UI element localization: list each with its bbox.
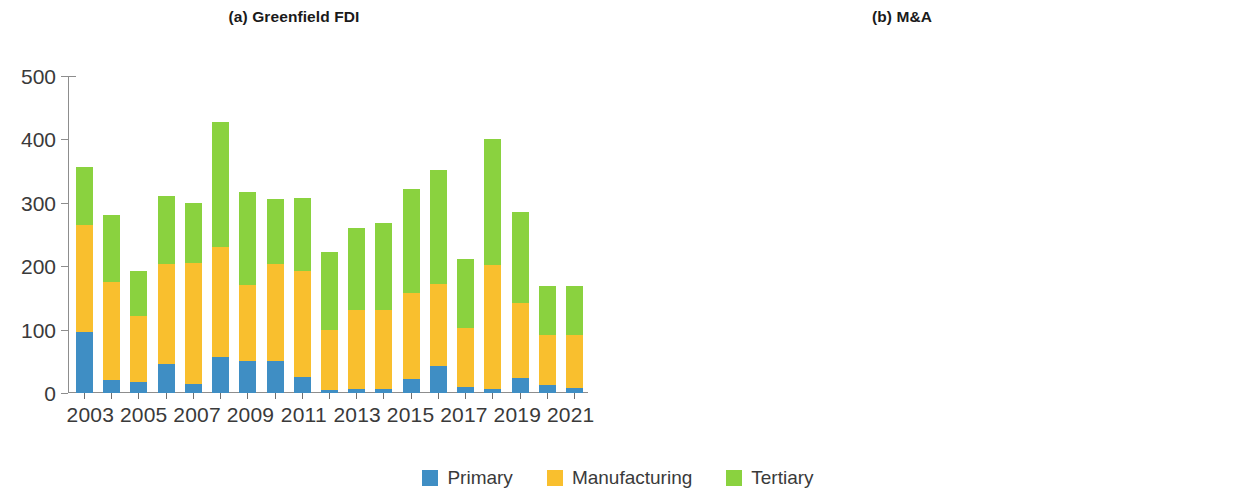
- bar-a-2006: [158, 76, 175, 393]
- bar-a-2018: [484, 76, 501, 393]
- x-axis-label-a-2005: 2005: [120, 404, 168, 425]
- bar-segment-primary-a-2011: [294, 377, 311, 393]
- bar-segment-manufacturing-a-2005: [130, 316, 147, 381]
- chart-legend: PrimaryManufacturingTertiary: [0, 468, 1236, 487]
- bar-segment-primary-a-2005: [130, 382, 147, 393]
- y-axis-tick-a-0: [61, 393, 68, 394]
- panel-m-and-a: (b) M&A 0100200300400500 200320052007200…: [618, 0, 1236, 460]
- x-axis-label-a-2009: 2009: [227, 404, 275, 425]
- bar-segment-tertiary-a-2012: [321, 252, 338, 329]
- y-axis-tick-a-400: [61, 139, 68, 140]
- bar-segment-tertiary-a-2008: [212, 122, 229, 247]
- bar-segment-manufacturing-a-2012: [321, 330, 338, 390]
- tertiary-swatch-icon: [726, 470, 742, 486]
- x-axis-label-a-2019: 2019: [494, 404, 542, 425]
- x-axis-tick-a-2014: [383, 393, 384, 399]
- legend-item-primary: Primary: [422, 468, 512, 487]
- bar-segment-tertiary-a-2007: [185, 203, 202, 263]
- bar-segment-primary-a-2015: [403, 379, 420, 393]
- bar-a-2010: [267, 76, 284, 393]
- x-axis-tick-a-2006: [166, 393, 167, 399]
- bar-segment-tertiary-a-2009: [239, 192, 256, 285]
- y-axis-label-a-200: 200: [21, 256, 56, 277]
- bar-a-2007: [185, 76, 202, 393]
- bar-group-greenfield-fdi: [69, 76, 588, 393]
- x-axis-tick-a-2019: [520, 393, 521, 399]
- bar-a-2003: [76, 76, 93, 393]
- bar-a-2008: [212, 76, 229, 393]
- bar-segment-manufacturing-a-2021: [566, 335, 583, 388]
- legend-item-tertiary: Tertiary: [726, 468, 813, 487]
- bar-a-2011: [294, 76, 311, 393]
- bar-segment-manufacturing-a-2006: [158, 264, 175, 364]
- x-axis-tick-a-2015: [411, 393, 412, 399]
- x-axis-label-a-2017: 2017: [440, 404, 488, 425]
- bar-segment-manufacturing-a-2020: [539, 335, 556, 386]
- bar-segment-tertiary-a-2003: [76, 167, 93, 225]
- bar-segment-tertiary-a-2006: [158, 196, 175, 264]
- bar-segment-primary-a-2006: [158, 364, 175, 393]
- bar-segment-tertiary-a-2010: [267, 199, 284, 264]
- y-axis-tick-a-500: [61, 76, 68, 77]
- legend-label-tertiary: Tertiary: [751, 468, 813, 487]
- x-axis-tick-a-2003: [84, 393, 85, 399]
- bar-segment-manufacturing-a-2018: [484, 265, 501, 389]
- primary-swatch-icon: [422, 470, 438, 486]
- bar-segment-primary-a-2007: [185, 384, 202, 394]
- bar-segment-manufacturing-a-2007: [185, 263, 202, 383]
- bar-segment-tertiary-a-2015: [403, 189, 420, 294]
- bar-segment-manufacturing-a-2017: [457, 328, 474, 388]
- bar-segment-manufacturing-a-2013: [348, 310, 365, 389]
- bar-segment-tertiary-a-2005: [130, 271, 147, 317]
- panel-greenfield-fdi: (a) Greenfield FDI 0100200300400500 2003…: [0, 0, 618, 460]
- x-axis-label-a-2013: 2013: [333, 404, 381, 425]
- x-axis-tick-a-2020: [547, 393, 548, 399]
- x-axis-tick-a-2010: [275, 393, 276, 399]
- bar-segment-primary-a-2008: [212, 357, 229, 393]
- bar-segment-tertiary-a-2016: [430, 170, 447, 283]
- bar-segment-tertiary-a-2014: [375, 223, 392, 310]
- x-axis-label-a-2011: 2011: [281, 404, 327, 425]
- x-axis-labels-a: 2003200520072009201120132015201720192021: [68, 404, 588, 440]
- bar-segment-manufacturing-a-2009: [239, 285, 256, 361]
- bar-segment-tertiary-a-2019: [512, 212, 529, 303]
- x-axis-tick-a-2021: [574, 393, 575, 399]
- bar-a-2017: [457, 76, 474, 393]
- bar-segment-manufacturing-a-2010: [267, 264, 284, 361]
- x-axis-tick-a-2013: [356, 393, 357, 399]
- bar-a-2019: [512, 76, 529, 393]
- x-axis-tick-a-2017: [465, 393, 466, 399]
- bar-segment-primary-a-2019: [512, 378, 529, 393]
- bar-segment-manufacturing-a-2014: [375, 310, 392, 389]
- bar-a-2009: [239, 76, 256, 393]
- x-axis-tick-a-2008: [220, 393, 221, 399]
- x-axis-tick-a-2018: [492, 393, 493, 399]
- bar-segment-manufacturing-a-2016: [430, 284, 447, 366]
- stacked-bar-figure: (a) Greenfield FDI 0100200300400500 2003…: [0, 0, 1236, 498]
- panel-b-title: (b) M&A: [593, 8, 1211, 26]
- bar-segment-primary-a-2003: [76, 332, 93, 393]
- x-axis-tick-a-2007: [193, 393, 194, 399]
- bar-segment-primary-a-2016: [430, 366, 447, 393]
- bar-a-2013: [348, 76, 365, 393]
- x-axis-label-a-2021: 2021: [547, 404, 595, 425]
- bar-a-2004: [103, 76, 120, 393]
- bar-segment-primary-a-2020: [539, 385, 556, 393]
- y-axis-label-a-500: 500: [21, 66, 56, 87]
- x-axis-label-a-2007: 2007: [173, 404, 221, 425]
- x-axis-tick-a-2004: [111, 393, 112, 399]
- bar-a-2020: [539, 76, 556, 393]
- y-axis-tick-a-100: [61, 330, 68, 331]
- bar-segment-manufacturing-a-2015: [403, 293, 420, 379]
- bar-segment-manufacturing-a-2003: [76, 225, 93, 332]
- x-axis-label-a-2003: 2003: [67, 404, 115, 425]
- bar-segment-primary-a-2009: [239, 361, 256, 393]
- bar-a-2014: [375, 76, 392, 393]
- y-axis-label-a-100: 100: [21, 319, 56, 340]
- bar-a-2015: [403, 76, 420, 393]
- bar-segment-tertiary-a-2018: [484, 139, 501, 265]
- x-axis-tick-a-2012: [329, 393, 330, 399]
- bar-segment-primary-a-2004: [103, 380, 120, 393]
- y-axis-tick-a-300: [61, 203, 68, 204]
- x-axis-tick-a-2011: [302, 393, 303, 399]
